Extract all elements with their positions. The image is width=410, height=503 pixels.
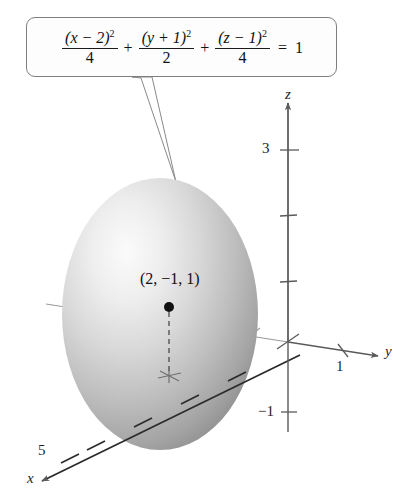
ellipsoid-figure: (x − 2)2 4 + (y + 1)2 2 + (z − 1)2 4 = 1… <box>0 0 410 503</box>
term-1-numerator-base: (x − 2) <box>65 30 110 47</box>
equation-term-1: (x − 2)2 4 <box>62 29 118 67</box>
axis-y <box>277 334 378 357</box>
center-point-dot <box>164 302 174 312</box>
term-3-numerator-exponent: 2 <box>262 28 267 39</box>
axis-label-x: x <box>27 470 34 487</box>
term-1-numerator-exponent: 2 <box>110 28 115 39</box>
equation-operator-2: + <box>199 39 210 57</box>
equation-term-2: (y + 1)2 2 <box>139 29 195 67</box>
axis-label-y: y <box>385 343 392 360</box>
axis-label-z: z <box>285 86 291 103</box>
axis-z <box>280 103 299 432</box>
tick-label-x-5: 5 <box>38 442 46 459</box>
term-3-denominator: 4 <box>239 49 247 67</box>
equation-equals-sign: = <box>275 39 287 57</box>
term-1-numerator: (x − 2)2 <box>62 29 118 49</box>
equation-callout-box: (x − 2)2 4 + (y + 1)2 2 + (z − 1)2 4 = 1 <box>26 17 337 77</box>
tick-label-z-minus-1: −1 <box>258 403 274 420</box>
callout-tail <box>132 77 176 182</box>
term-2-numerator-exponent: 2 <box>186 28 191 39</box>
equation-right-side: 1 <box>292 39 303 57</box>
term-3-numerator: (z − 1)2 <box>215 29 270 49</box>
term-2-denominator: 2 <box>162 49 170 67</box>
tick-label-z-3: 3 <box>262 140 270 157</box>
term-1-denominator: 4 <box>86 49 94 67</box>
ellipsoid-equation: (x − 2)2 4 + (y + 1)2 2 + (z − 1)2 4 = 1 <box>27 18 338 78</box>
term-3-numerator-base: (z − 1) <box>218 30 262 47</box>
tick-label-y-1: 1 <box>336 358 344 375</box>
equation-operator-1: + <box>123 39 134 57</box>
ellipsoid-surface <box>62 178 258 450</box>
term-2-numerator-base: (y + 1) <box>142 30 187 47</box>
equation-term-3: (z − 1)2 4 <box>215 29 270 67</box>
center-point-label: (2, −1, 1) <box>140 270 200 288</box>
term-2-numerator: (y + 1)2 <box>139 29 195 49</box>
